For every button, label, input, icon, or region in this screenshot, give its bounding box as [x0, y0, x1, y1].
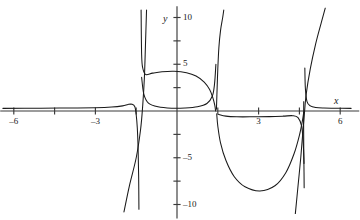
x-axis-label: x — [334, 96, 338, 106]
y-tick-label: 10 — [183, 13, 192, 22]
graph-figure: –6–336105–5–10xy — [0, 0, 360, 220]
y-tick-label: –10 — [183, 200, 197, 209]
curve-upper-arch-lower-lobe — [142, 64, 216, 108]
y-tick-label: 5 — [183, 59, 188, 68]
curve-upper-arch — [141, 10, 216, 111]
x-tick-label: –6 — [9, 117, 18, 126]
x-tick-label: 6 — [338, 117, 343, 126]
x-tick-label: 3 — [256, 117, 261, 126]
curve-right-asymptote-hook-left — [304, 102, 305, 188]
plot-canvas — [0, 0, 360, 220]
curve-left-horizontal-branch — [3, 104, 139, 209]
x-tick-label: –3 — [91, 117, 100, 126]
y-tick-label: –5 — [183, 153, 192, 162]
curve-right-far-flat-branch — [305, 68, 351, 108]
curve-right-rising-asymptotic-branch — [216, 10, 223, 109]
y-axis-label: y — [163, 14, 167, 24]
